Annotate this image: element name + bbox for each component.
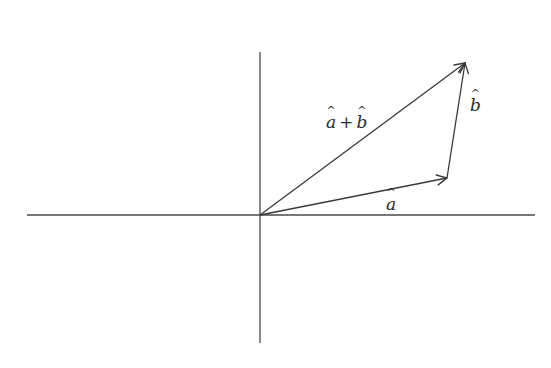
sum-label-b: b bbox=[356, 114, 367, 131]
sum-label-a: a bbox=[326, 114, 336, 131]
vector-a-arrow bbox=[260, 178, 447, 215]
vector-b-arrow bbox=[447, 63, 465, 178]
vector-a-label: a bbox=[386, 196, 396, 213]
label-a-text: a bbox=[386, 196, 396, 213]
vector-sum-label: a+b bbox=[326, 114, 367, 131]
diagram-canvas bbox=[0, 0, 551, 368]
sum-label-plus: + bbox=[339, 112, 353, 132]
vector-sum-arrow bbox=[260, 63, 465, 215]
vector-diagram: a b a+b bbox=[0, 0, 551, 368]
label-b-text: b bbox=[470, 97, 481, 114]
vector-b-label: b bbox=[470, 97, 481, 114]
